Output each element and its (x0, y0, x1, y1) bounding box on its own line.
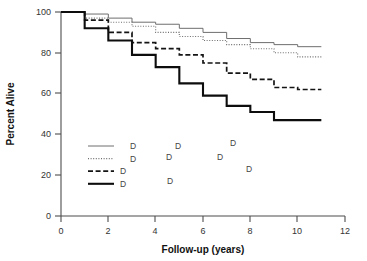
x-axis-group: 0 2 4 6 8 10 12 Follow-up (years) (58, 216, 350, 255)
legend-label-1: D (130, 141, 136, 151)
x-axis-title: Follow-up (years) (162, 244, 245, 255)
y-axis-title: Percent Alive (5, 82, 16, 145)
x-axis-ticks (61, 216, 345, 222)
y-axis-group: 0 20 40 60 80 100 Percent Alive (5, 7, 61, 221)
stray-label-2: D (230, 138, 236, 148)
y-tick-label-60: 60 (41, 88, 51, 98)
legend-label-2: D (130, 154, 136, 164)
chart-legend: DDDD (88, 141, 136, 189)
stray-label-1: D (175, 141, 181, 151)
stray-label-6: D (167, 176, 173, 186)
x-tick-label-10: 10 (292, 226, 302, 236)
survival-curve-2 (61, 12, 321, 57)
y-axis-tick-labels: 0 20 40 60 80 100 (36, 7, 51, 221)
x-tick-label-0: 0 (58, 226, 63, 236)
survival-curve-3 (61, 12, 321, 90)
stray-label-3: D (166, 152, 172, 162)
stray-label-4: D (217, 152, 223, 162)
legend-label-4: D (120, 179, 126, 189)
x-tick-label-4: 4 (152, 226, 157, 236)
stray-label-group: DDDDDD (166, 138, 252, 186)
y-tick-label-100: 100 (36, 7, 51, 17)
x-tick-label-2: 2 (105, 226, 110, 236)
kaplan-meier-survival-chart: 0 20 40 60 80 100 Percent Alive 0 (0, 0, 367, 261)
x-axis-tick-labels: 0 2 4 6 8 10 12 (58, 226, 350, 236)
y-axis-ticks (55, 12, 61, 216)
x-tick-label-8: 8 (247, 226, 252, 236)
stray-label-5: D (246, 164, 252, 174)
y-tick-label-0: 0 (46, 211, 51, 221)
chart-canvas: 0 20 40 60 80 100 Percent Alive 0 (0, 0, 367, 261)
y-tick-label-80: 80 (41, 48, 51, 58)
survival-curves-group (61, 12, 321, 120)
y-tick-label-20: 20 (41, 170, 51, 180)
x-tick-label-12: 12 (340, 226, 350, 236)
y-tick-label-40: 40 (41, 129, 51, 139)
legend-label-3: D (120, 166, 126, 176)
x-tick-label-6: 6 (200, 226, 205, 236)
